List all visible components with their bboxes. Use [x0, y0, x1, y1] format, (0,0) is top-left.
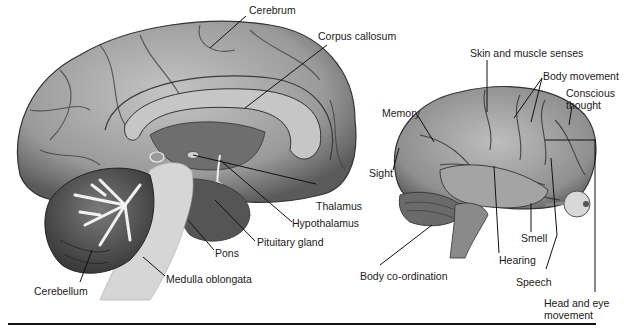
- label-memory: Memory: [382, 107, 420, 119]
- label-sight: Sight: [369, 167, 393, 179]
- label-cerebrum: Cerebrum: [249, 4, 296, 16]
- label-skin-muscle-senses: Skin and muscle senses: [470, 47, 583, 59]
- sagittal-brain: [18, 21, 356, 300]
- label-conscious-thought: Conscious thought: [566, 87, 624, 111]
- brain-diagram: Cerebrum Corpus callosum Thalamus Hypoth…: [0, 0, 624, 329]
- label-corpus-callosum: Corpus callosum: [318, 30, 396, 42]
- label-hypothalamus: Hypothalamus: [292, 217, 359, 229]
- label-body-coordination: Body co-ordination: [360, 270, 448, 282]
- label-hearing: Hearing: [499, 254, 536, 266]
- lateral-brain: [394, 87, 595, 258]
- label-head-eye-movement: Head and eye movement: [544, 297, 612, 321]
- label-pituitary-gland: Pituitary gland: [257, 236, 324, 248]
- label-pons: Pons: [215, 247, 239, 259]
- label-body-movement: Body movement: [543, 70, 619, 82]
- label-thalamus: Thalamus: [316, 200, 362, 212]
- label-speech: Speech: [516, 276, 552, 288]
- label-smell: Smell: [521, 232, 547, 244]
- label-medulla-oblongata: Medulla oblongata: [166, 273, 252, 285]
- label-cerebellum: Cerebellum: [34, 285, 88, 297]
